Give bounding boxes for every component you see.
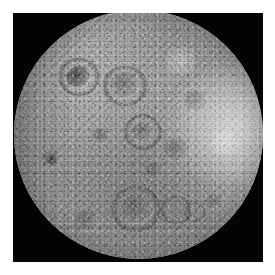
moon-container [13,13,263,262]
limb-shading-layer [14,13,263,259]
sky-background [13,13,263,262]
lunar-image-view: Grayscale photograph of the heavily crat… [0,0,275,275]
lunar-disk [14,13,263,259]
